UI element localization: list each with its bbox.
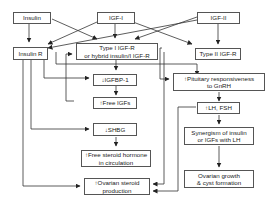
node-label: Insulin <box>23 14 41 21</box>
node-type2-igf-r: Type II IGF-R <box>195 48 241 60</box>
node-shbg: ↓SHBG <box>93 123 137 136</box>
arrow-insulin-to-type1 <box>52 19 97 39</box>
node-insulin-r: Insulin R <box>13 47 48 60</box>
node-label: ↑Pituitary responsiveness <box>184 75 254 82</box>
node-label: or IGFs with LH <box>198 136 241 143</box>
node-igfbp-1: ↓IGFBP-1 <box>93 74 137 86</box>
node-ovarian-growth: Ovarian growth & cyst formation <box>184 170 254 188</box>
node-pituitary-responsiveness: ↑Pituitary responsiveness to GnRH <box>173 73 265 91</box>
node-label: Synergism of insulin <box>191 129 246 136</box>
node-lh-fsh: ↑LH, FSH <box>197 102 240 114</box>
node-label: Type I IGF-R <box>99 44 134 51</box>
node-free-steroid-hormone: ↑Free steroid hormone in circulation <box>81 150 151 167</box>
node-label: IGF-II <box>211 14 227 21</box>
arrow-igf2-to-type1 <box>135 17 197 39</box>
arrow-insulin-r-to-igfbp1 <box>44 60 89 78</box>
arrow-igf1-to-insulin-r <box>48 22 97 44</box>
node-label: Ovarian growth <box>198 172 240 179</box>
node-label: to GnRH <box>207 82 231 89</box>
node-label: ↑Ovarian steroid <box>94 179 139 186</box>
node-label: production <box>103 187 132 194</box>
node-label: Type II IGF-R <box>199 50 236 57</box>
node-igf-1: IGF-I <box>97 12 135 24</box>
node-ovarian-steroid-production: ↑Ovarian steroid production <box>84 178 150 195</box>
node-label: Insulin R <box>18 50 42 57</box>
node-type1-igf-r: Type I IGF-R or hybrid insulin/I IGF-R <box>76 43 158 60</box>
node-label: IGF-I <box>109 14 123 21</box>
arrow-type1-to-pituitary <box>160 48 169 79</box>
node-label: ↓IGFBP-1 <box>101 76 128 83</box>
node-label: or hybrid insulin/I IGF-R <box>84 52 149 59</box>
arrow-insulin-r-to-shbg <box>31 60 89 129</box>
node-label: ↓SHBG <box>105 126 126 133</box>
arrow-free-igfs-to-ovarian-steroid <box>66 54 74 101</box>
arrow-insulin-r-to-ovarian-steroid <box>23 60 80 186</box>
node-label: ↑LH, FSH <box>205 104 232 111</box>
node-label: ↑Free steroid hormone <box>85 151 147 158</box>
node-label: ↑Free IGFs <box>100 99 131 106</box>
arrow-type1-to-ovarian-steroid <box>153 52 164 184</box>
node-label: in circulation <box>99 159 133 166</box>
node-free-igfs: ↑Free IGFs <box>93 97 137 109</box>
node-synergism: Synergism of insulin or IGFs with LH <box>184 127 254 145</box>
node-insulin: Insulin <box>13 12 51 24</box>
node-label: & cyst formation <box>197 179 241 186</box>
node-igf-2: IGF-II <box>197 12 240 24</box>
arrow-igf1-to-type2 <box>133 22 192 44</box>
